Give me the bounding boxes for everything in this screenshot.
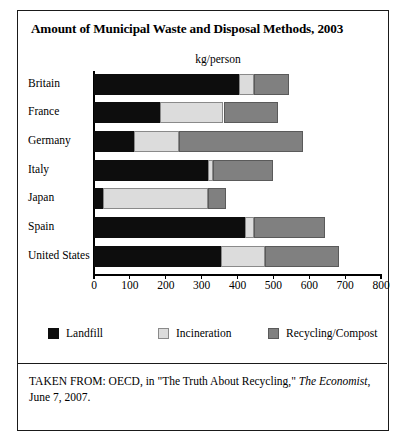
plot-area: kg/person BritainFranceGermanyItalyJapan…: [18, 49, 388, 319]
category-label: Germany: [28, 134, 88, 146]
category-label: Italy: [28, 163, 88, 175]
footer-divider: [18, 363, 387, 364]
x-tick-label: 700: [325, 279, 365, 291]
source-date: June 7, 2007.: [29, 391, 90, 403]
source-text-pre: TAKEN FROM: OECD, in "The Truth About Re…: [29, 375, 299, 387]
source-publication: The Economist: [299, 375, 368, 387]
x-tick-label: 600: [289, 279, 329, 291]
bar-row: [94, 246, 339, 267]
bar-segment-incineration: [103, 188, 208, 209]
bar-row: [94, 131, 303, 152]
bar-segment-recycling: [254, 217, 326, 238]
bar-segment-recycling: [213, 160, 272, 181]
bar-segment-recycling: [265, 246, 339, 267]
legend-swatch-incineration-icon: [158, 328, 169, 339]
x-tick-label: 300: [182, 279, 222, 291]
bar-row: [94, 217, 325, 238]
bar-row: [94, 102, 278, 123]
legend-item-recycling: Recycling/Compost: [268, 327, 377, 339]
bar-segment-landfill: [94, 131, 134, 152]
bar-segment-recycling: [254, 74, 289, 95]
bar-row: [94, 160, 273, 181]
legend-item-landfill: Landfill: [48, 327, 103, 339]
x-tick-label: 100: [110, 279, 150, 291]
x-tick-label: 200: [146, 279, 186, 291]
legend-item-incineration: Incineration: [158, 327, 232, 339]
bar-row: [94, 188, 226, 209]
legend-swatch-landfill-icon: [48, 328, 59, 339]
category-label: France: [28, 105, 88, 117]
bar-chart: BritainFranceGermanyItalyJapanSpainUnite…: [18, 71, 388, 311]
chart-title: Amount of Municipal Waste and Disposal M…: [31, 21, 343, 37]
x-tick-label: 400: [218, 279, 258, 291]
source-note: TAKEN FROM: OECD, in "The Truth About Re…: [29, 373, 379, 405]
bar-segment-incineration: [221, 246, 265, 267]
bar-segment-incineration: [160, 102, 223, 123]
bar-segment-landfill: [94, 74, 239, 95]
bar-segment-incineration: [239, 74, 254, 95]
chart-legend: LandfillIncinerationRecycling/Compost: [18, 327, 388, 353]
bar-segment-landfill: [94, 188, 103, 209]
bar-segment-incineration: [245, 217, 253, 238]
figure-frame: Amount of Municipal Waste and Disposal M…: [17, 10, 389, 431]
x-tick-label: 500: [253, 279, 293, 291]
bar-segment-recycling: [179, 131, 302, 152]
bar-segment-landfill: [94, 246, 221, 267]
x-tick-label: 800: [361, 279, 401, 291]
bar-segment-landfill: [94, 102, 160, 123]
bar-segment-landfill: [94, 160, 208, 181]
axis-unit-label: kg/person: [138, 53, 298, 65]
category-label: Britain: [28, 77, 88, 89]
bar-segment-recycling: [224, 102, 278, 123]
bar-segment-recycling: [208, 188, 226, 209]
source-text-post: ,: [367, 375, 370, 387]
legend-label: Recycling/Compost: [286, 327, 377, 339]
bar-row: [94, 74, 289, 95]
bar-segment-incineration: [134, 131, 179, 152]
category-label: United States: [28, 249, 88, 261]
bar-segment-landfill: [94, 217, 245, 238]
legend-swatch-recycling-icon: [268, 328, 279, 339]
x-tick-label: 0: [74, 279, 114, 291]
category-label: Spain: [28, 220, 88, 232]
legend-label: Incineration: [176, 327, 232, 339]
legend-label: Landfill: [66, 327, 103, 339]
category-label: Japan: [28, 191, 88, 203]
